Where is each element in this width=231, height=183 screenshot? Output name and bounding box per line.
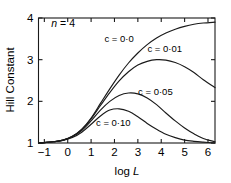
x-tick-label-7: 6	[205, 146, 211, 158]
x-tick-label-1: 0	[65, 146, 71, 158]
y-tick-label-3: 4	[27, 12, 34, 24]
x-tick-label-3: 2	[111, 146, 117, 158]
plot-annotations: n = 4	[51, 17, 75, 29]
x-tick-label-6: 5	[181, 146, 187, 158]
y-tick-label-2: 3	[27, 54, 33, 66]
y-axis-title: Hill Constant	[4, 47, 16, 113]
x-tick-label-5: 4	[158, 146, 165, 158]
series-label-3: c = 0·10	[96, 117, 131, 128]
axis-titles: Hill Constant logL	[4, 47, 139, 177]
series-annotations: c = 0·0c = 0·01c = 0·05c = 0·10	[96, 33, 182, 127]
series-label-1: c = 0·01	[147, 43, 182, 54]
x-axis-title-variable: L	[133, 165, 139, 177]
y-axis-tick-labels: 1234	[27, 12, 34, 149]
annotation-value-0: = 4	[57, 17, 75, 29]
hill-constant-line-chart: −10123456 1234 c = 0·0c = 0·01c = 0·05c …	[0, 0, 231, 183]
series-label-2: c = 0·05	[138, 86, 173, 97]
x-axis-tick-labels: −10123456	[38, 146, 211, 158]
x-tick-label-0: −1	[38, 146, 51, 158]
x-tick-label-4: 3	[135, 146, 141, 158]
x-tick-label-2: 1	[88, 146, 94, 158]
x-axis-title-word: log	[115, 165, 130, 177]
series-label-0: c = 0·0	[104, 33, 133, 44]
y-tick-label-0: 1	[27, 137, 33, 149]
chart-figure: −10123456 1234 c = 0·0c = 0·01c = 0·05c …	[0, 0, 231, 183]
x-axis-title: logL	[115, 165, 140, 177]
y-tick-label-1: 2	[27, 95, 33, 107]
annotation-0: n = 4	[51, 17, 75, 29]
